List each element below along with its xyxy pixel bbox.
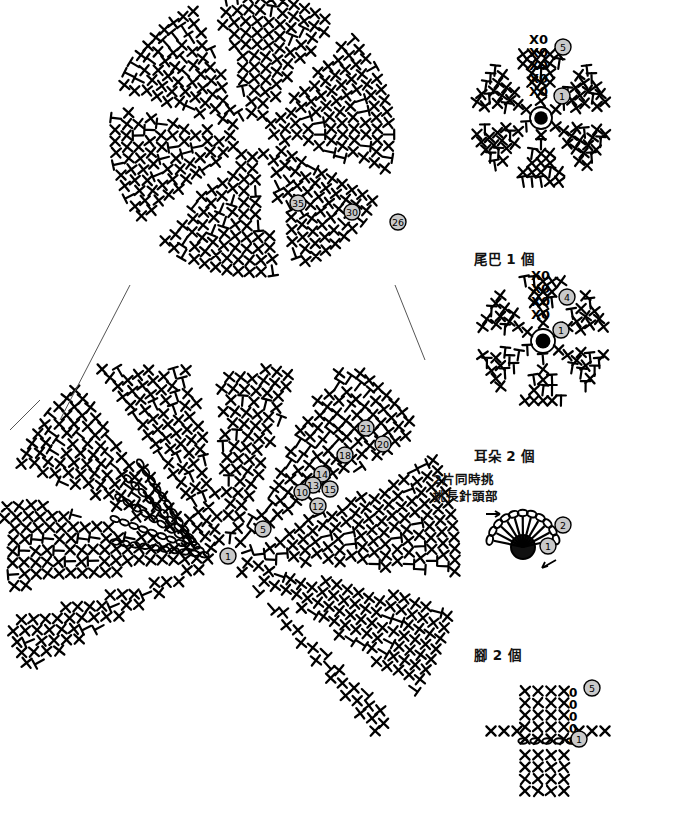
svg-text:26: 26 [392, 217, 404, 228]
svg-text:5: 5 [589, 683, 595, 694]
pattern-vector-layer: X0X0X0X0X0X0X0X0X000000 3530262120181413… [0, 0, 675, 820]
round-marker: 1 [554, 88, 570, 104]
round-marker: 30 [344, 204, 360, 220]
svg-text:5: 5 [560, 42, 566, 53]
round-marker: 12 [310, 498, 326, 514]
svg-text:2: 2 [560, 520, 566, 531]
round-marker: 26 [390, 214, 406, 230]
round-marker: 15 [322, 481, 338, 497]
svg-text:X0: X0 [531, 307, 550, 322]
svg-text:X0: X0 [529, 71, 548, 86]
svg-text:35: 35 [292, 198, 304, 209]
svg-text:X0: X0 [529, 58, 548, 73]
svg-text:1: 1 [225, 551, 231, 562]
round-marker: 21 [358, 420, 374, 436]
svg-text:1: 1 [559, 91, 565, 102]
round-marker: 5 [255, 521, 271, 537]
svg-text:X0: X0 [531, 294, 550, 309]
svg-text:12: 12 [312, 501, 324, 512]
round-marker: 4 [559, 289, 575, 305]
svg-text:X0: X0 [531, 281, 550, 296]
round-marker: 10 [294, 484, 310, 500]
svg-text:X0: X0 [529, 84, 548, 99]
svg-text:4: 4 [564, 292, 570, 303]
label-leg: 腳 2 個 [474, 644, 521, 664]
round-marker: 18 [337, 447, 353, 463]
svg-text:18: 18 [339, 450, 351, 461]
svg-text:1: 1 [558, 325, 564, 336]
svg-text:30: 30 [346, 207, 358, 218]
svg-text:X0: X0 [529, 45, 548, 60]
round-marker: 1 [571, 731, 587, 747]
pattern-chart-canvas: X0X0X0X0X0X0X0X0X000000 3530262120181413… [0, 0, 675, 820]
svg-text:1: 1 [576, 734, 582, 745]
annotation-line-1: 2片同時挑 [433, 472, 494, 487]
round-marker: 5 [584, 680, 600, 696]
svg-text:15: 15 [324, 484, 336, 495]
round-marker: 35 [290, 195, 306, 211]
round-marker: 1 [540, 538, 556, 554]
round-marker: 1 [220, 548, 236, 564]
round-marker: 5 [555, 39, 571, 55]
round-marker: 1 [553, 322, 569, 338]
label-ear: 耳朵 2 個 [474, 445, 535, 465]
svg-text:21: 21 [360, 423, 372, 434]
svg-text:10: 10 [296, 487, 308, 498]
svg-text:20: 20 [377, 439, 389, 450]
svg-text:X0: X0 [529, 32, 548, 47]
round-marker: 20 [375, 436, 391, 452]
svg-text:5: 5 [260, 524, 266, 535]
label-tail: 尾巴 1 個 [474, 248, 535, 268]
stitch-field: X0X0X0X0X0X0X0X0X000000 [0, 0, 610, 796]
svg-text:1: 1 [545, 541, 551, 552]
round-marker: 2 [555, 517, 571, 533]
annotation-line-2: 挑長針頭部 [433, 489, 498, 504]
svg-text:X0: X0 [531, 268, 550, 283]
